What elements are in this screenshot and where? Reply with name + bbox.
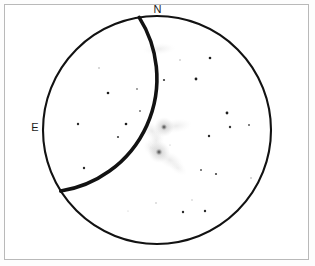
primary-spiral-galaxy-core bbox=[161, 124, 167, 130]
sketch-canvas bbox=[0, 0, 315, 266]
star-9 bbox=[226, 112, 229, 115]
star-6 bbox=[195, 78, 198, 81]
star-2 bbox=[107, 92, 110, 95]
primary-spiral-galaxy bbox=[154, 117, 174, 137]
star-18 bbox=[215, 173, 217, 175]
cardinal-label-east: E bbox=[28, 122, 42, 133]
star-21 bbox=[155, 202, 156, 203]
star-5 bbox=[163, 79, 165, 81]
star-22 bbox=[182, 211, 184, 213]
star-23 bbox=[204, 210, 206, 212]
star-15 bbox=[117, 136, 119, 138]
star-11 bbox=[248, 124, 250, 126]
star-16 bbox=[83, 167, 85, 169]
eyepiece-field-of-view: N E bbox=[0, 0, 315, 266]
star-14 bbox=[125, 123, 128, 126]
star-19 bbox=[250, 177, 251, 178]
star-1 bbox=[98, 67, 99, 68]
star-13 bbox=[77, 123, 79, 125]
star-20 bbox=[191, 199, 192, 200]
star-24 bbox=[127, 210, 128, 211]
companion-galaxy-core bbox=[156, 149, 163, 156]
companion-galaxy bbox=[148, 141, 170, 163]
star-4 bbox=[139, 110, 141, 112]
star-7 bbox=[179, 59, 180, 60]
star-12 bbox=[208, 135, 210, 137]
star-17 bbox=[200, 169, 202, 171]
cardinal-label-north: N bbox=[0, 4, 315, 15]
star-25 bbox=[169, 144, 170, 145]
star-8 bbox=[209, 57, 212, 60]
star-10 bbox=[229, 126, 231, 128]
star-3 bbox=[136, 88, 138, 90]
sketch-page: N E bbox=[0, 0, 315, 266]
